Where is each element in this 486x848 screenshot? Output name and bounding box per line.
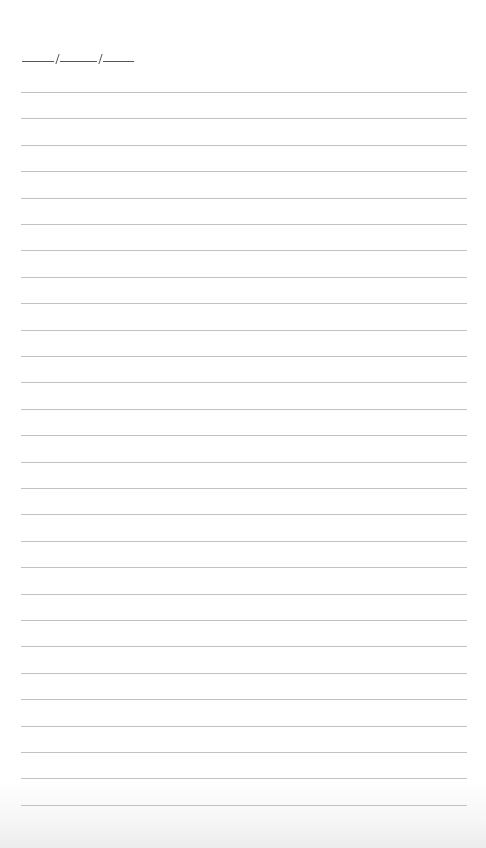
ruled-line [21,435,467,436]
ruled-line [21,118,467,119]
ruled-line [21,541,467,542]
ruled-line [21,646,467,647]
ruled-line [21,382,467,383]
ruled-line [21,356,467,357]
ruled-line [21,171,467,172]
notebook-page [0,0,486,848]
ruled-line [21,409,467,410]
ruled-line [21,752,467,753]
date-field[interactable] [22,50,134,64]
date-month-blank[interactable] [22,61,54,62]
date-separator [55,54,59,64]
ruled-line [21,620,467,621]
ruled-line [21,224,467,225]
ruled-line [21,92,467,93]
ruled-line [21,145,467,146]
ruled-line [21,488,467,489]
ruled-line [21,514,467,515]
ruled-line [21,250,467,251]
ruled-line [21,726,467,727]
ruled-line [21,330,467,331]
ruled-line [21,673,467,674]
ruled-line [21,594,467,595]
ruled-line [21,198,467,199]
ruled-line [21,699,467,700]
ruled-line [21,567,467,568]
ruled-line [21,277,467,278]
ruled-line [21,462,467,463]
ruled-line [21,303,467,304]
ruled-line [21,778,467,779]
ruled-line [21,805,467,806]
date-day-blank[interactable] [60,61,97,62]
date-year-blank[interactable] [103,61,134,62]
date-separator [98,54,102,64]
